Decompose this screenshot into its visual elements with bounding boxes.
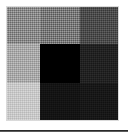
grayscale-grid-swatch	[7, 7, 118, 120]
grid-cell-r1c2	[40, 7, 80, 44]
grid-cell-r2c3	[80, 44, 118, 83]
grid-cell-r3c2	[40, 83, 80, 120]
grid-cell-r1c3	[80, 7, 118, 44]
figure-panel	[0, 0, 128, 128]
grid-cell-r2c1	[7, 44, 40, 83]
grid-cell-r3c3	[80, 83, 118, 120]
bottom-divider-rule	[0, 130, 128, 132]
grid-cell-r2c2	[40, 44, 80, 83]
grid-cell-r3c1	[7, 83, 40, 120]
grid-cell-r1c1	[7, 7, 40, 44]
